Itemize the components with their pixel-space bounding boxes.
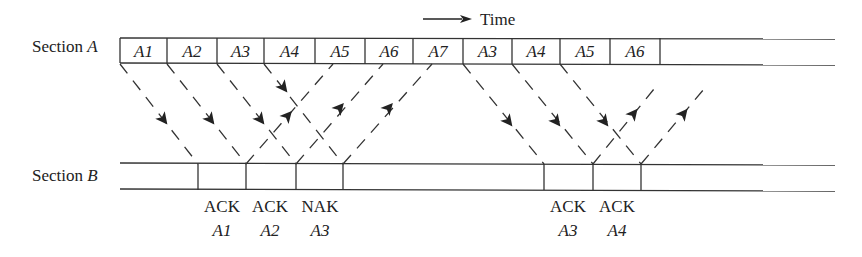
frame-cell-label: A5 (575, 42, 595, 61)
section-a-label: Section A (32, 37, 98, 56)
time-arrow (423, 15, 472, 23)
frame-cell-label: A5 (330, 42, 350, 61)
section-b-channel (120, 163, 835, 191)
frame-a2-down (167, 64, 246, 164)
frame-cell-label: A7 (428, 42, 449, 61)
frame-a4-down (264, 64, 343, 164)
response-frame: A4 (607, 221, 627, 240)
response-frame: A3 (310, 221, 330, 240)
response-labels: ACKA1ACKA2NAKA3ACKA3ACKA4 (204, 197, 636, 240)
frame-cell-label: A4 (526, 42, 546, 61)
arrow-down-icon (202, 111, 219, 128)
arrow-down-icon (500, 113, 517, 130)
frame-cell-label: A3 (477, 42, 497, 61)
frame-a3-resend-down (463, 64, 544, 164)
arrow-up-icon (380, 99, 397, 116)
ack-nak-timing-diagram: Time Section A A1A2A3A4A5A6A7A3A4A5A6 Se… (0, 0, 862, 257)
arrow-down-icon (548, 113, 565, 130)
response-type: ACK (550, 197, 587, 216)
frame-transmissions (120, 64, 641, 164)
response-frame: A2 (260, 221, 280, 240)
frame-a1-down (120, 64, 198, 164)
response-type: ACK (599, 197, 636, 216)
response-frame: A1 (212, 221, 232, 240)
frame-cell-label: A3 (230, 42, 250, 61)
response-type: ACK (204, 197, 241, 216)
ack-a4-up (641, 89, 704, 164)
frame-cell-label: A6 (625, 42, 645, 61)
arrow-down-icon (155, 111, 172, 128)
response-frame: A3 (558, 221, 578, 240)
arrow-up-icon (331, 99, 348, 116)
ack-a2-up (296, 64, 383, 164)
time-label: Time (480, 10, 515, 29)
section-a-frames: A1A2A3A4A5A6A7A3A4A5A6 (133, 38, 660, 64)
nak-a3-up (343, 64, 432, 164)
arrow-down-icon (252, 111, 269, 128)
frame-cell-label: A4 (279, 42, 299, 61)
section-b-boundaries (198, 164, 641, 190)
frame-cell-label: A1 (133, 42, 153, 61)
frame-a3-down (217, 64, 296, 164)
response-type: ACK (252, 197, 289, 216)
frame-cell-label: A2 (182, 42, 202, 61)
ack-a3-up (593, 89, 654, 164)
arrow-up-icon (675, 105, 692, 122)
frame-a4-resend-down (512, 64, 593, 164)
section-b-label: Section B (32, 166, 98, 185)
response-type: NAK (302, 197, 340, 216)
frame-cell-label: A6 (379, 42, 399, 61)
arrow-down-icon (596, 113, 613, 130)
